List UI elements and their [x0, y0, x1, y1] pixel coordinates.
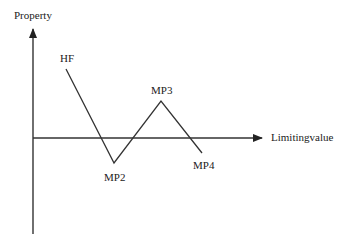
x-axis-label: Limitingvalue — [271, 132, 333, 143]
y-axis-label: Property — [14, 10, 52, 21]
point-label-mp4: MP4 — [193, 160, 214, 171]
point-label-hf: HF — [60, 53, 74, 64]
diagram-canvas — [0, 0, 345, 244]
property-curve — [66, 69, 202, 163]
point-label-mp3: MP3 — [151, 85, 172, 96]
point-label-mp2: MP2 — [104, 172, 125, 183]
